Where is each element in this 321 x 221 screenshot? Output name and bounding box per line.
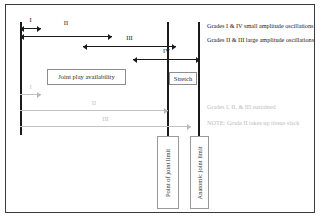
arrow-head-left bbox=[20, 26, 24, 32]
arrow-head-right bbox=[164, 108, 168, 114]
arrow-shaft bbox=[20, 126, 191, 127]
arrow-shaft bbox=[20, 110, 168, 111]
anatomic-joint-limit-box: Anatomic joint limit bbox=[190, 136, 209, 209]
point-of-joint-limit-box: Point of joint limit bbox=[157, 136, 179, 209]
anatomic-joint-limit-line bbox=[198, 22, 200, 140]
arrow-label-grade-4-oscillation: IV bbox=[133, 47, 200, 54]
arrow-grade-4-oscillation bbox=[133, 55, 200, 64]
arrow-head-right bbox=[196, 57, 200, 63]
arrow-head-right bbox=[37, 26, 41, 32]
arrow-head-right bbox=[37, 92, 41, 98]
diagram-canvas: I II III IV Joint play availability Stre… bbox=[0, 0, 321, 221]
arrow-label-grade-3-oscillation: III bbox=[83, 34, 176, 41]
anatomic-joint-limit-label: Anatomic joint limit bbox=[196, 146, 204, 199]
legend-oscillation-small: Grades I & IV small amplitude oscillatio… bbox=[207, 22, 313, 30]
arrow-head-left bbox=[20, 34, 24, 40]
arrow-label-grade-3-sustained: III bbox=[20, 115, 191, 122]
arrow-shaft bbox=[133, 59, 200, 60]
joint-play-availability-box: Joint play availability bbox=[47, 69, 126, 85]
diagram-frame: I II III IV Joint play availability Stre… bbox=[5, 4, 315, 213]
arrow-head-left bbox=[83, 44, 87, 50]
arrow-head-right bbox=[187, 124, 191, 130]
arrow-label-grade-1-sustained: I bbox=[20, 83, 41, 90]
stretch-box: Stretch bbox=[169, 72, 197, 85]
legend-sustained-grades: Grades I, II, & III sustained bbox=[207, 103, 276, 111]
arrow-head-left bbox=[133, 57, 137, 63]
arrow-label-grade-2-oscillation: II bbox=[20, 19, 112, 26]
arrow-grade-1-sustained bbox=[20, 90, 41, 99]
stretch-label: Stretch bbox=[174, 75, 192, 83]
point-of-joint-limit-label: Point of joint limit bbox=[164, 148, 172, 196]
joint-play-availability-label: Joint play availability bbox=[58, 73, 114, 81]
arrow-grade-2-sustained bbox=[20, 106, 168, 115]
legend-oscillation-large: Grades II & III large amplitude oscillat… bbox=[207, 36, 314, 44]
arrow-label-grade-2-sustained: II bbox=[20, 99, 168, 106]
legend-sustained-note: NOTE: Grade II takes up tissue slack bbox=[207, 119, 299, 127]
arrow-grade-3-sustained bbox=[20, 122, 191, 131]
